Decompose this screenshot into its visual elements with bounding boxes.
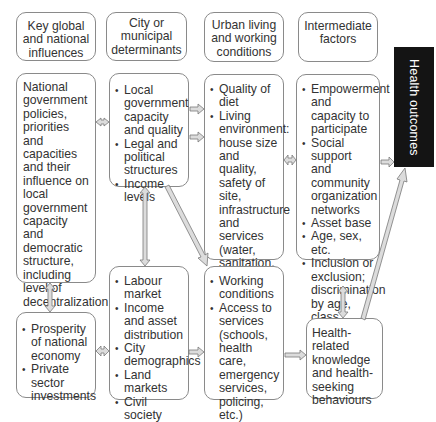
list-item: Quality of diet — [210, 83, 279, 110]
city-economy-list: Labour market Income and asset distribut… — [115, 275, 184, 422]
double-arrow-icon — [284, 155, 296, 165]
double-arrow-icon — [96, 118, 109, 126]
list-item: Labour market — [115, 275, 184, 302]
list-item: Social support and community organizatio… — [302, 137, 375, 217]
list-item: Private sector investments — [22, 363, 91, 403]
right-arrow-icon — [381, 157, 394, 167]
list-item: Income levels — [115, 178, 184, 205]
national-policies-box: National government policies, priorities… — [16, 73, 96, 283]
header-label: Urban living and working conditions — [205, 19, 283, 59]
list-item: Land markets — [115, 369, 184, 396]
right-arrow-icon — [285, 350, 306, 360]
list-item: Income and asset distribution — [115, 302, 184, 342]
working-conditions-list: Working conditions Access to services (s… — [210, 275, 279, 422]
intermediate-factors-box: Empowerment and capacity to participate … — [296, 74, 380, 260]
health-outcomes-label: Health outcomes — [407, 59, 421, 156]
city-governance-list: Local government capacity and quality Le… — [115, 84, 184, 205]
list-item: Working conditions — [210, 275, 279, 302]
header-intermediate: Intermediate factors — [298, 12, 378, 62]
right-arrow-icon — [190, 104, 204, 114]
list-item: Legal and political structures — [115, 138, 184, 178]
header-label: City or municipal determinants — [107, 17, 186, 57]
health-behaviour-text: Health-related knowledge and health-seek… — [312, 326, 373, 407]
health-outcomes-box: Health outcomes — [394, 47, 434, 167]
national-economy-list: Prosperity of national economy Private s… — [22, 323, 91, 403]
national-policies-text: National government policies, priorities… — [23, 80, 108, 309]
header-city-municipal: City or municipal determinants — [106, 12, 187, 61]
intermediate-factors-list: Empowerment and capacity to participate … — [302, 83, 375, 351]
working-conditions-box: Working conditions Access to services (s… — [204, 266, 284, 400]
header-label: Key global and national influences — [17, 20, 95, 60]
list-item: Age, sex, etc. — [302, 230, 375, 257]
header-urban-living: Urban living and working conditions — [204, 12, 284, 62]
header-label: Intermediate factors — [299, 20, 377, 47]
national-economy-box: Prosperity of national economy Private s… — [16, 312, 96, 398]
list-item: Asset base — [302, 217, 375, 230]
header-global-national: Key global and national influences — [16, 12, 96, 61]
right-arrow-icon — [190, 132, 204, 142]
list-item: Local government capacity and quality — [115, 84, 184, 138]
list-item: Prosperity of national economy — [22, 323, 91, 363]
living-conditions-box: Quality of diet Living environment: hous… — [204, 74, 284, 260]
health-behaviour-box: Health-related knowledge and health-seek… — [306, 318, 383, 399]
list-item: Civil society — [115, 396, 184, 422]
list-item: Empowerment and capacity to participate — [302, 83, 375, 137]
list-item: Access to services (schools, health care… — [210, 302, 279, 422]
double-arrow-icon — [96, 346, 109, 356]
list-item: City demographics — [115, 342, 184, 369]
city-governance-box: Local government capacity and quality Le… — [109, 73, 189, 187]
city-economy-box: Labour market Income and asset distribut… — [109, 266, 189, 400]
